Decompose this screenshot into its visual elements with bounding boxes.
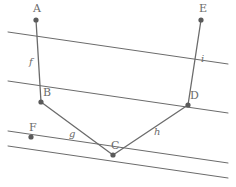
parallel-lines-group — [8, 32, 228, 178]
segment-label-g: g — [69, 129, 75, 139]
segments-group — [36, 20, 201, 155]
point-B — [38, 99, 43, 104]
point-label-F: F — [29, 122, 37, 133]
point-label-B: B — [43, 87, 51, 98]
point-label-D: D — [190, 90, 199, 101]
point-C — [110, 152, 115, 157]
segment-g — [41, 102, 113, 155]
segment-label-i: i — [201, 54, 204, 64]
segment-label-f: f — [29, 57, 33, 67]
segment-h — [113, 105, 188, 155]
segment-label-h: h — [154, 127, 160, 137]
point-label-A: A — [33, 3, 41, 14]
point-label-E: E — [199, 3, 207, 14]
segment-f — [36, 20, 41, 102]
geometry-figure: ABCDEFfghi — [0, 0, 236, 187]
figure-canvas — [0, 0, 236, 187]
point-A — [33, 17, 38, 22]
point-E — [198, 17, 203, 22]
point-D — [185, 102, 190, 107]
point-label-C: C — [111, 140, 119, 151]
point-F — [28, 134, 33, 139]
